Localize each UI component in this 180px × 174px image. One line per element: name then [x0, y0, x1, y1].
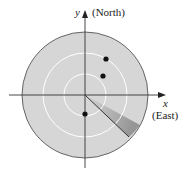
y-axis-arrow-icon	[82, 10, 88, 18]
x-axis-label: x	[163, 98, 168, 109]
y-axis-direction: (North)	[92, 7, 125, 18]
y-axis-label: y	[75, 7, 80, 18]
point-1	[103, 56, 108, 61]
x-axis-direction: (East)	[152, 110, 178, 121]
point-2	[100, 73, 105, 78]
point-3	[82, 111, 87, 116]
radar-diagram	[0, 0, 180, 174]
